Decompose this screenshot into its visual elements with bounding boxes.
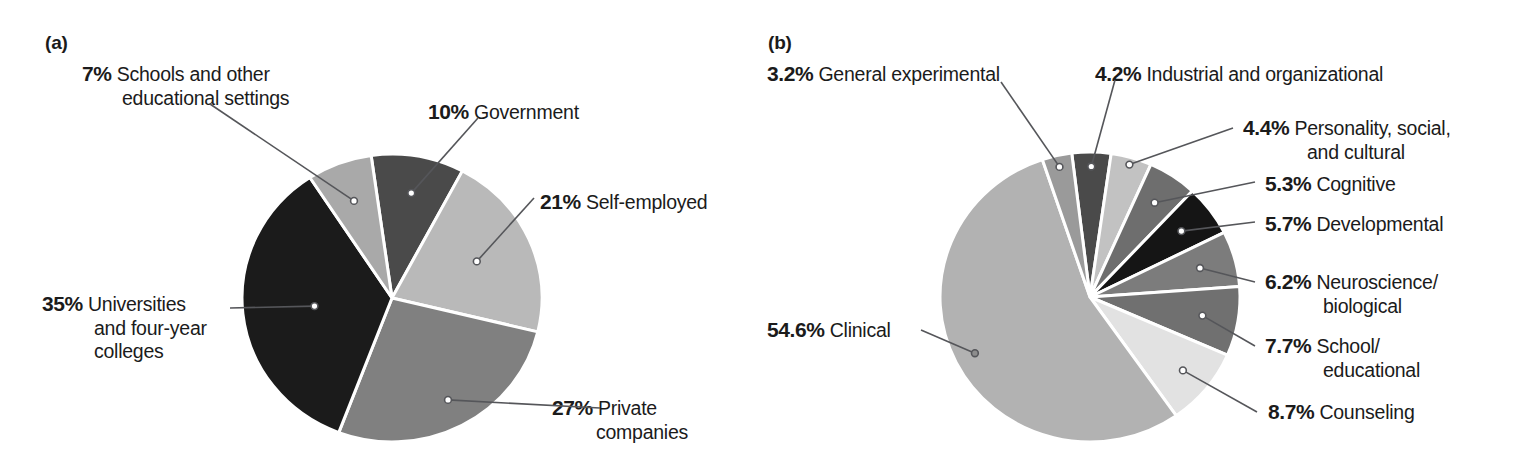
- leader-dot-neuroscience: [1197, 265, 1204, 272]
- leader-dot-school: [1199, 312, 1206, 319]
- leader-personality: [1129, 128, 1233, 165]
- leader-dot-industrial: [1088, 163, 1095, 170]
- leader-dot-personality: [1126, 161, 1133, 168]
- leader-dot-developmental: [1178, 228, 1185, 235]
- pie-chart-panel-b: (b) 3.2% General experimental 4.2% Indus…: [763, 0, 1526, 463]
- leader-dot-general-experimental: [1056, 164, 1063, 171]
- leader-dot-clinical: [972, 350, 979, 357]
- leader-dot-counseling: [1180, 367, 1187, 374]
- leader-general-experimental: [1001, 82, 1060, 167]
- pie-a: [0, 0, 763, 463]
- pie-b: [763, 0, 1526, 463]
- leader-dot-cognitive: [1151, 199, 1158, 206]
- leader-schools: [210, 104, 354, 201]
- leader-dot-universities: [311, 303, 318, 310]
- leader-dot-private-companies: [445, 397, 452, 404]
- leader-dot-government: [408, 190, 415, 197]
- leader-dot-schools: [351, 198, 358, 205]
- leader-dot-self-employed: [473, 258, 480, 265]
- pie-chart-panel-a: (a) 7% Schools and other educational set…: [0, 0, 763, 463]
